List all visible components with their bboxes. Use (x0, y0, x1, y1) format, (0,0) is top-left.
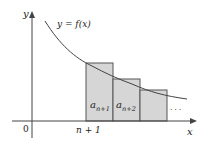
ellipsis: · · · (170, 106, 181, 114)
x-axis-arrow-icon (190, 118, 197, 124)
origin-label: 0 (23, 124, 29, 134)
diagram-canvas: y x 0 y = f(x) n + 1 a n+1 a n+2 · · · (0, 0, 203, 150)
curve-label: y = f(x) (56, 19, 91, 29)
y-axis-label: y (22, 8, 29, 19)
x-axis-label: x (187, 126, 193, 137)
rect-label-subscript: n+1 (96, 105, 110, 113)
rect-label-subscript: n+2 (122, 105, 136, 113)
x-tick-label: n + 1 (76, 125, 101, 135)
y-axis-arrow-icon (29, 11, 35, 18)
